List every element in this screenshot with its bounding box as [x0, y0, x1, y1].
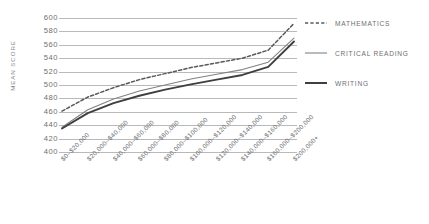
legend-line-swatch [305, 18, 327, 28]
y-tick-label: 480 [22, 94, 58, 102]
y-tick-label: 560 [22, 41, 58, 49]
y-tick-label: 600 [22, 14, 58, 22]
legend-label: CRITICAL READING [335, 50, 409, 57]
legend-label: MATHEMATICS [335, 20, 390, 27]
legend-item[interactable]: CRITICAL READING [305, 48, 409, 58]
y-tick-label: 440 [22, 121, 58, 129]
legend-item[interactable]: WRITING [305, 78, 369, 88]
legend-label: WRITING [335, 80, 369, 87]
y-tick-label: 420 [22, 135, 58, 143]
plot-area [59, 18, 297, 152]
series-lines [59, 18, 297, 152]
legend-item[interactable]: MATHEMATICS [305, 18, 390, 28]
series-line [62, 23, 294, 111]
y-tick-label: 500 [22, 81, 58, 89]
y-tick-label: 460 [22, 108, 58, 116]
y-tick-label: 580 [22, 27, 58, 35]
legend-line-swatch [305, 48, 327, 58]
legend-line-swatch [305, 78, 327, 88]
y-tick-label: 540 [22, 54, 58, 62]
y-tick-label: 520 [22, 68, 58, 76]
chart-legend: MATHEMATICSCRITICAL READINGWRITING [305, 18, 429, 98]
income-vs-sat-score-line-chart: MEAN SCORE 60058056054052050048046044042… [0, 0, 429, 224]
x-axis-tick-labels: $0–$20,000$20,000–$40,000$40,000–$60,000… [0, 152, 429, 224]
